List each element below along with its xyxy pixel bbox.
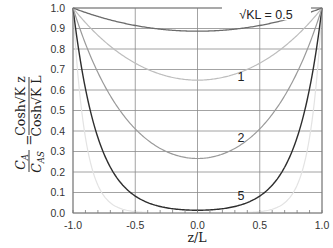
y-axis-ticks: 0.00.10.20.30.40.50.60.70.80.91.0	[50, 2, 65, 219]
gridlines	[73, 8, 322, 213]
y-tick-label: 0.8	[50, 43, 65, 55]
y-title-lhs-den: C	[29, 163, 44, 173]
y-tick-label: 0.9	[50, 22, 65, 34]
y-title-lhs-num: C	[13, 160, 28, 170]
y-title-rhs-den: Cosh√K L	[29, 75, 44, 136]
y-tick-label: 0.5	[50, 104, 65, 116]
svg-text:CAS: CAS	[29, 151, 46, 173]
y-tick-label: 1.0	[50, 2, 65, 14]
y-axis-title: CA CAS = Cosh√K z Cosh√K L	[13, 75, 46, 172]
y-title-rhs: Cosh√K z Cosh√K L	[13, 75, 44, 136]
curve-label: 1	[238, 70, 245, 84]
x-tick-label: 0.5	[252, 219, 267, 231]
y-title-lhs-num-sub: A	[20, 154, 30, 161]
y-title-lhs-den-sub: AS	[36, 151, 46, 164]
x-axis-title: z/L	[187, 230, 206, 245]
y-tick-label: 0.4	[50, 125, 65, 137]
svg-text:CA: CA	[13, 154, 30, 170]
y-title-lhs: CA CAS	[13, 150, 46, 173]
y-tick-label: 0.0	[50, 207, 65, 219]
curve-labels: √KL = 0.5125	[222, 6, 311, 202]
y-tick-label: 0.1	[50, 186, 65, 198]
curve-label: 5	[238, 189, 245, 203]
y-title-rhs-num: Cosh√K z	[13, 76, 28, 136]
y-tick-label: 0.3	[50, 145, 65, 157]
x-tick-label: -1.0	[64, 219, 82, 231]
x-tick-label: 1.0	[315, 219, 330, 231]
chart: 0.00.10.20.30.40.50.60.70.80.91.0 -1.0-0…	[0, 0, 333, 248]
x-tick-label: -0.5	[126, 219, 144, 231]
y-tick-label: 0.7	[50, 63, 65, 75]
y-tick-label: 0.2	[50, 166, 65, 178]
curve-label: 2	[238, 131, 245, 145]
curve-label: √KL = 0.5	[239, 8, 292, 22]
y-tick-label: 0.6	[50, 84, 65, 96]
